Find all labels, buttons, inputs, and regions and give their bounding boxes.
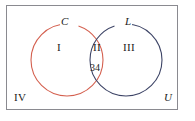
set-c-circle	[31, 24, 103, 96]
region-iii-label: III	[123, 42, 135, 53]
set-l-label: L	[124, 16, 132, 27]
intersection-count-label: 34	[90, 63, 100, 73]
region-iv-label: IV	[14, 92, 26, 103]
set-c-label: C	[60, 16, 69, 27]
region-i-label: I	[57, 42, 61, 53]
venn-diagram-figure: C L I II III 34 IV U	[0, 0, 195, 121]
set-l-circle	[90, 24, 162, 96]
region-ii-label: II	[93, 42, 101, 53]
universal-set-label: U	[163, 92, 173, 103]
